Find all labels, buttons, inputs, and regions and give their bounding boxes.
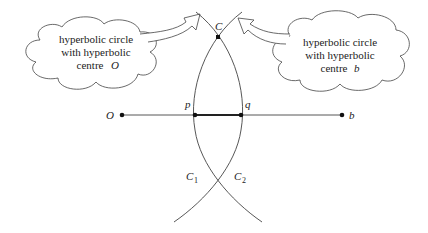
point-b (340, 113, 345, 118)
left-callout-arrow (140, 14, 200, 42)
left-cloud-line2: with hyperbolic (61, 46, 130, 58)
point-p (193, 113, 198, 118)
label-p: p (184, 98, 191, 110)
left-cloud-line3: centre (77, 59, 104, 71)
label-c: C (215, 20, 223, 32)
label-c1-sub: 1 (194, 176, 198, 185)
label-c1: C 1 (186, 170, 198, 185)
hyperbolic-circles-diagram: hyperbolic circle with hyperbolic centre… (0, 0, 428, 233)
right-callout-arrow (238, 18, 290, 44)
left-cloud-centre-label: O (111, 59, 119, 71)
left-cloud-line1: hyperbolic circle (59, 33, 133, 45)
label-c2-name: C (234, 170, 242, 182)
label-q: q (245, 98, 251, 110)
right-cloud-callout: hyperbolic circle with hyperbolic centre… (238, 11, 409, 92)
curve-c1 (193, 12, 262, 222)
point-c (216, 35, 220, 39)
right-cloud-line1: hyperbolic circle (303, 36, 377, 48)
curve-c2 (174, 12, 243, 222)
right-cloud-line2: with hyperbolic (305, 49, 374, 61)
right-cloud-line3: centre (321, 62, 348, 74)
left-cloud-callout: hyperbolic circle with hyperbolic centre… (26, 14, 200, 89)
label-b: b (349, 109, 355, 121)
label-c1-name: C (186, 170, 194, 182)
label-c2: C 2 (234, 170, 246, 185)
point-o (120, 113, 125, 118)
right-cloud-centre-label: b (354, 62, 360, 74)
label-c2-sub: 2 (242, 176, 246, 185)
point-q (239, 113, 244, 118)
label-o: O (106, 109, 114, 121)
